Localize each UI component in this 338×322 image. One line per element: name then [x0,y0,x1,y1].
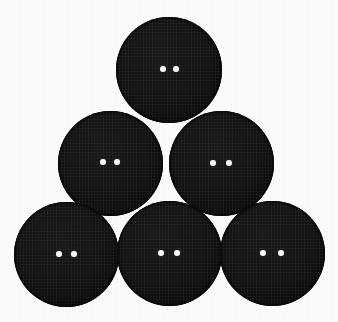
button-middle-right [169,111,274,216]
button-hole [100,159,106,165]
button-bottom-center [117,201,222,306]
button-rim [14,202,119,307]
button-middle-left [58,111,163,216]
button-rim [220,201,325,306]
button-hole [260,250,266,256]
button-hole [173,66,179,72]
button-hole [278,250,284,256]
button-bottom-left [14,202,119,307]
button-bottom-right [220,201,325,306]
button-top-center [116,17,222,123]
button-rim [117,201,222,306]
button-rim [116,17,222,123]
button-rim [58,111,163,216]
button-hole [210,160,216,166]
button-hole [160,66,166,72]
button-photo-canvas [0,0,338,322]
button-hole [158,250,164,256]
button-hole [226,160,232,166]
button-hole [56,251,62,257]
button-hole [174,250,180,256]
button-hole [114,159,120,165]
button-rim [169,111,274,216]
button-hole [71,251,77,257]
